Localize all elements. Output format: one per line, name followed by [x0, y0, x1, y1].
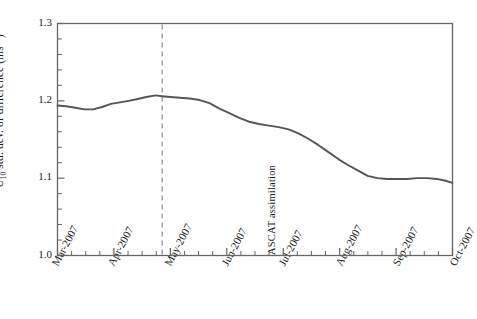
chart-figure: U10 std. dev. of difference (ms−1) 1.3 1…: [0, 0, 477, 319]
axes-frame: [58, 24, 453, 256]
plot-area: [0, 0, 477, 319]
data-series-line: [58, 95, 453, 182]
y-tick-marks: [58, 24, 65, 256]
x-tick-marks: [58, 248, 453, 256]
